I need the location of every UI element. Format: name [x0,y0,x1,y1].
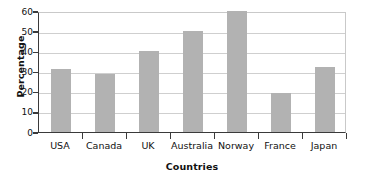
bar-slot [303,13,347,132]
x-tick-mark [126,133,127,139]
y-tick-mark [33,11,38,13]
x-tick-label: Japan [302,140,346,152]
y-tick-mark [33,112,38,114]
x-tick-label: USA [38,140,82,152]
bars-layer [39,13,345,132]
y-axis-tick-labels: 0102030405060 [0,0,33,181]
y-tick-label: 20 [11,88,33,97]
y-tick-mark [33,92,38,94]
bar-slot [127,13,171,132]
x-tick-label: Australia [170,140,214,152]
bar-slot [215,13,259,132]
bar-slot [83,13,127,132]
y-tick-label: 0 [11,129,33,138]
bar[interactable] [315,67,334,132]
y-tick-label: 60 [11,8,33,17]
bar[interactable] [95,74,114,132]
x-tick-label: France [258,140,302,152]
x-tick-mark [170,133,171,139]
x-tick-mark [302,133,303,139]
bar-slot [171,13,215,132]
bar[interactable] [183,31,202,132]
bar-chart: Percentage 0102030405060 USACanadaUKAust… [0,0,365,181]
y-tick-mark [33,72,38,74]
plot-area [38,12,346,133]
x-tick-mark [346,133,347,139]
x-tick-label: UK [126,140,170,152]
x-tick-label: Canada [82,140,126,152]
x-tick-label: Norway [214,140,258,152]
y-tick-label: 30 [11,68,33,77]
y-tick-mark [33,132,38,134]
bar-slot [259,13,303,132]
x-tick-mark [214,133,215,139]
bar[interactable] [51,69,70,132]
y-tick-mark [33,31,38,33]
bar-slot [39,13,83,132]
y-tick-label: 40 [11,48,33,57]
y-tick-label: 10 [11,108,33,117]
x-tick-mark [258,133,259,139]
y-tick-label: 50 [11,28,33,37]
x-axis-title: Countries [38,161,346,172]
bar[interactable] [227,11,246,132]
bar[interactable] [271,93,290,132]
x-tick-mark [82,133,83,139]
bar[interactable] [139,51,158,132]
y-tick-mark [33,52,38,54]
